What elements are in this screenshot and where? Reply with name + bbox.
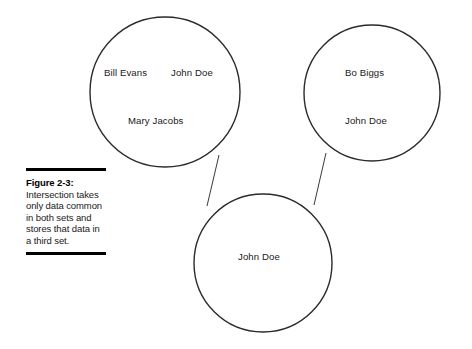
member-label-set-result-0: John Doe	[238, 251, 280, 262]
set-diagram	[0, 0, 472, 349]
member-label-set-a-1: John Doe	[171, 67, 213, 78]
connector-set-a-to-result	[207, 155, 219, 206]
connector-set-b-to-result	[314, 153, 326, 205]
set-circle-bottom-result	[194, 194, 332, 332]
set-circle-top-right	[304, 25, 440, 161]
member-label-set-b-1: John Doe	[345, 115, 387, 126]
figure-canvas: Figure 2-3: Intersection takes only data…	[0, 0, 472, 349]
member-label-set-a-2: Mary Jacobs	[128, 115, 183, 126]
member-label-set-b-0: Bo Biggs	[345, 67, 384, 78]
set-circle-top-left	[90, 17, 240, 167]
member-label-set-a-0: Bill Evans	[104, 67, 147, 78]
